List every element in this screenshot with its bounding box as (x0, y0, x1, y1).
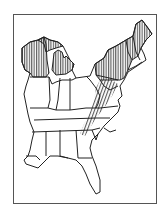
map-canvas (0, 0, 167, 212)
region-northeast-hatched (95, 20, 152, 80)
region-michigan-lp-hatched (52, 50, 74, 75)
